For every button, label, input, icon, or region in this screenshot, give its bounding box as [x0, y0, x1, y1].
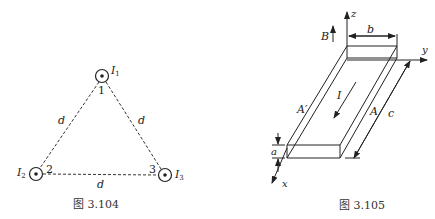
side-label-left: d	[58, 114, 65, 127]
wire-2-icon	[30, 168, 43, 181]
figure-3-105-labels: z y x B b a c I A′ A 图 3.105	[271, 8, 428, 212]
caption-3-105: 图 3.105	[339, 199, 385, 212]
wire-3-icon	[159, 169, 172, 182]
current-label-1: I1	[110, 64, 120, 78]
z-axis-label: z	[350, 8, 357, 19]
current-label-2: I2	[16, 166, 26, 180]
figures-canvas: I1 I2 I3 1 2 3 d d d 图 3.104	[0, 0, 435, 219]
caption-3-104: 图 3.104	[73, 198, 119, 211]
conductor-slab	[287, 34, 397, 158]
thickness-label: a	[271, 146, 277, 157]
length-label: c	[388, 107, 394, 120]
current-label: I	[336, 89, 342, 102]
vertex-label-2: 2	[46, 163, 53, 176]
face-label-right: A	[369, 105, 378, 118]
x-axis-label: x	[282, 178, 288, 189]
figure-3-105	[272, 12, 427, 183]
figure-3-104: I1 I2 I3 1 2 3 d d d 图 3.104	[16, 64, 184, 211]
vertex-label-3: 3	[149, 163, 156, 176]
side-label-right: d	[138, 114, 145, 127]
face-label-left: A′	[296, 103, 308, 116]
vertex-label-1: 1	[98, 84, 105, 97]
wire-1-icon	[96, 70, 109, 83]
width-label: b	[367, 23, 374, 36]
side-label-bottom: d	[97, 178, 104, 191]
current-label-3: I3	[174, 168, 184, 182]
y-axis-label: y	[421, 44, 428, 55]
b-field-label: B	[320, 30, 329, 43]
